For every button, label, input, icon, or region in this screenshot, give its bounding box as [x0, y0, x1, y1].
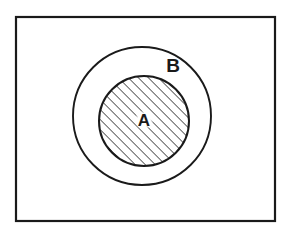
set-b-label: B: [166, 55, 180, 76]
euler-diagram-canvas: A B: [0, 0, 287, 234]
set-a-label: A: [138, 111, 150, 130]
euler-diagram-svg: A B: [0, 0, 287, 234]
